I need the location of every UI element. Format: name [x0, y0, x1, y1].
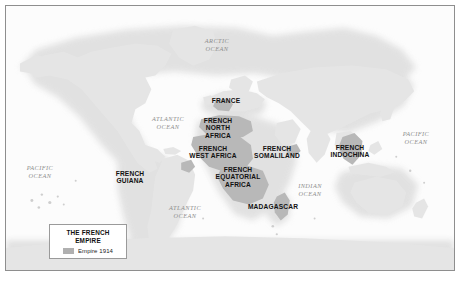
legend-entry: Empire 1914: [50, 248, 126, 254]
legend-title-line-2: EMPIRE: [75, 237, 101, 244]
legend-title: THE FRENCH EMPIRE: [50, 229, 126, 244]
french-empire-map-figure: THE FRENCH EMPIRE Empire 1914 FRANCEFREN…: [0, 0, 462, 291]
legend-swatch-empire-1914: [63, 248, 74, 254]
legend-title-line-1: THE FRENCH: [66, 229, 109, 236]
legend-entry-label: Empire 1914: [78, 248, 113, 254]
map-legend: THE FRENCH EMPIRE Empire 1914: [49, 224, 127, 259]
map-frame: THE FRENCH EMPIRE Empire 1914 FRANCEFREN…: [5, 5, 455, 271]
